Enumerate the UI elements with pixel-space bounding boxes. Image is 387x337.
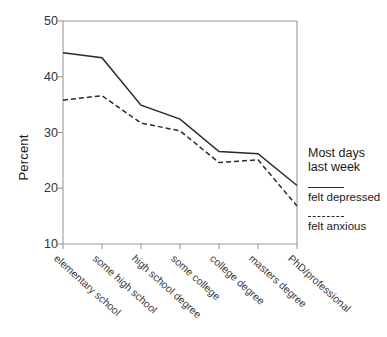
y-axis-ticks <box>58 21 63 244</box>
series-line-felt-anxious <box>63 96 297 206</box>
legend-label: felt anxious <box>308 220 387 232</box>
legend-line-solid-icon <box>308 187 344 188</box>
legend-line-dashed-icon <box>308 216 344 217</box>
data-series-lines <box>63 53 297 206</box>
series-line-felt-depressed <box>63 53 297 186</box>
legend-entry-felt-anxious: felt anxious <box>308 216 387 232</box>
legend-entry-felt-depressed: felt depressed <box>308 187 387 203</box>
legend-title-line2: last week <box>308 160 387 174</box>
legend-label: felt depressed <box>308 191 387 203</box>
legend-title-line1: Most days <box>308 146 387 160</box>
chart-legend: Most days last week felt depressed felt … <box>308 146 387 232</box>
x-axis-ticks <box>63 244 297 249</box>
axes-frame <box>63 21 297 244</box>
chart-figure: Percent 50 40 30 20 10 elementary school… <box>0 0 387 337</box>
